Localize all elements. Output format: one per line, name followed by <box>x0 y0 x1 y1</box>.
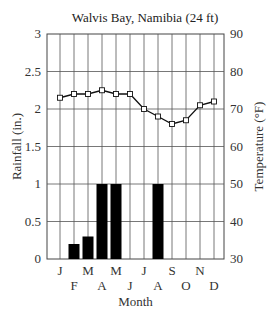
left-axis-title: Rainfall (in.) <box>9 113 24 180</box>
month-label: J <box>127 278 132 293</box>
month-label: S <box>168 263 175 278</box>
rainfall-bar <box>111 184 122 259</box>
month-label: A <box>97 278 107 293</box>
temperature-marker <box>114 92 119 97</box>
right-tick-label: 80 <box>230 64 243 79</box>
temperature-marker <box>198 103 203 108</box>
left-tick-label: 2.5 <box>25 64 41 79</box>
temperature-marker <box>86 92 91 97</box>
month-label: A <box>153 278 163 293</box>
month-label: O <box>181 278 190 293</box>
temperature-marker <box>58 95 63 100</box>
temperature-marker <box>184 118 189 123</box>
month-label: J <box>57 263 62 278</box>
left-tick-label: 1.5 <box>25 139 41 154</box>
temperature-marker <box>100 88 105 93</box>
month-label: D <box>209 278 218 293</box>
x-axis-title: Month <box>118 294 153 309</box>
left-tick-label: 0.5 <box>25 214 41 229</box>
month-label: F <box>70 278 77 293</box>
right-tick-label: 90 <box>230 26 243 41</box>
right-tick-label: 30 <box>230 251 243 266</box>
month-label: N <box>195 263 205 278</box>
left-tick-label: 0 <box>35 251 42 266</box>
rainfall-bar <box>83 237 94 260</box>
rainfall-bar <box>69 244 80 259</box>
temperature-marker <box>170 122 175 127</box>
left-tick-label: 3 <box>35 26 42 41</box>
left-tick-label: 2 <box>35 101 42 116</box>
temperature-line <box>60 90 214 124</box>
temperature-marker <box>72 92 77 97</box>
rainfall-bar <box>153 184 164 259</box>
temperature-marker <box>142 107 147 112</box>
month-label: J <box>141 263 146 278</box>
left-tick-label: 1 <box>35 176 42 191</box>
right-tick-label: 50 <box>230 176 243 191</box>
right-axis-title: Temperature (°F) <box>251 102 266 192</box>
right-tick-label: 70 <box>230 101 243 116</box>
month-label: M <box>110 263 122 278</box>
rainfall-bar <box>97 184 108 259</box>
month-label: M <box>82 263 94 278</box>
temperature-marker <box>212 99 217 104</box>
right-tick-label: 40 <box>230 214 243 229</box>
right-tick-label: 60 <box>230 139 243 154</box>
temperature-marker <box>128 92 133 97</box>
climate-chart: 00.511.522.5330405060708090JFMAMJJASONDM… <box>0 0 276 314</box>
temperature-marker <box>156 114 161 119</box>
